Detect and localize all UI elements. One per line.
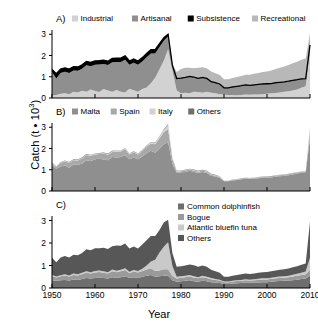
x-tick-label: 1950 <box>43 290 62 300</box>
legend-label-artisanal: Artisanal <box>141 14 172 23</box>
legend-swatch-artisanal <box>132 16 138 22</box>
legend-label-bogue: Bogue <box>187 213 211 222</box>
legend-label-recreational: Recreational <box>261 14 306 23</box>
legend-label-malta: Malta <box>81 107 101 116</box>
legend-label-common-dolphinfish: Common dolphinfish <box>187 202 260 211</box>
panel-c-plot: 01231950196019701980199020002010C)Common… <box>0 196 318 308</box>
y-tick-label: 1 <box>41 261 46 271</box>
panel-label-a: A) <box>56 13 66 24</box>
x-tick-label: 1990 <box>215 290 234 300</box>
legend-swatch-spain <box>111 109 117 115</box>
x-tick-label: 1970 <box>129 290 148 300</box>
panel-label-b: B) <box>56 106 66 117</box>
panel-a: 0123A)IndustrialArtisanalSubsistenceRecr… <box>0 10 318 110</box>
y-tick-label: 1 <box>41 165 46 175</box>
legend-swatch-bogue <box>178 214 184 220</box>
x-axis-label: Year <box>0 308 318 320</box>
x-tick-label: 2010 <box>301 290 318 300</box>
legend-label-others: Others <box>197 107 221 116</box>
legend-label-others: Others <box>187 234 211 243</box>
y-tick-label: 2 <box>41 238 46 248</box>
panel-b-plot: 0123B)MaltaSpainItalyOthers <box>0 103 318 203</box>
y-tick-label: 1 <box>41 72 46 82</box>
legend-label-subsistence: Subsistence <box>196 14 240 23</box>
y-tick-label: 3 <box>41 122 46 132</box>
legend-swatch-italy <box>150 109 156 115</box>
y-tick-label: 2 <box>41 144 46 154</box>
x-tick-label: 1960 <box>86 290 105 300</box>
legend-swatch-industrial <box>72 16 78 22</box>
y-tick-label: 3 <box>41 29 46 39</box>
legend-label-atlantic-bluefin-tuna: Atlantic bluefin tuna <box>187 223 257 232</box>
legend-swatch-subsistence <box>188 16 194 22</box>
legend-swatch-others <box>178 235 184 241</box>
legend-swatch-recreational <box>252 16 258 22</box>
x-tick-label: 1980 <box>172 290 191 300</box>
legend-swatch-malta <box>72 109 78 115</box>
x-tick-label: 2000 <box>258 290 277 300</box>
legend-swatch-common-dolphinfish <box>178 204 184 210</box>
panel-c: 01231950196019701980199020002010C)Common… <box>0 196 318 308</box>
area-malta <box>52 139 310 191</box>
legend-label-italy: Italy <box>158 107 173 116</box>
legend-swatch-atlantic-bluefin-tuna <box>178 225 184 231</box>
y-tick-label: 0 <box>41 186 46 196</box>
legend-swatch-others <box>188 109 194 115</box>
panel-label-c: C) <box>56 199 66 210</box>
y-tick-label: 0 <box>41 93 46 103</box>
panel-a-plot: 0123A)IndustrialArtisanalSubsistenceRecr… <box>0 10 318 110</box>
y-tick-label: 2 <box>41 51 46 61</box>
panel-b: 0123B)MaltaSpainItalyOthers <box>0 103 318 203</box>
legend-label-industrial: Industrial <box>81 14 114 23</box>
legend-label-spain: Spain <box>119 107 139 116</box>
y-tick-label: 3 <box>41 216 46 226</box>
figure-container: Catch (t • 103) 0123A)IndustrialArtisana… <box>0 0 318 327</box>
